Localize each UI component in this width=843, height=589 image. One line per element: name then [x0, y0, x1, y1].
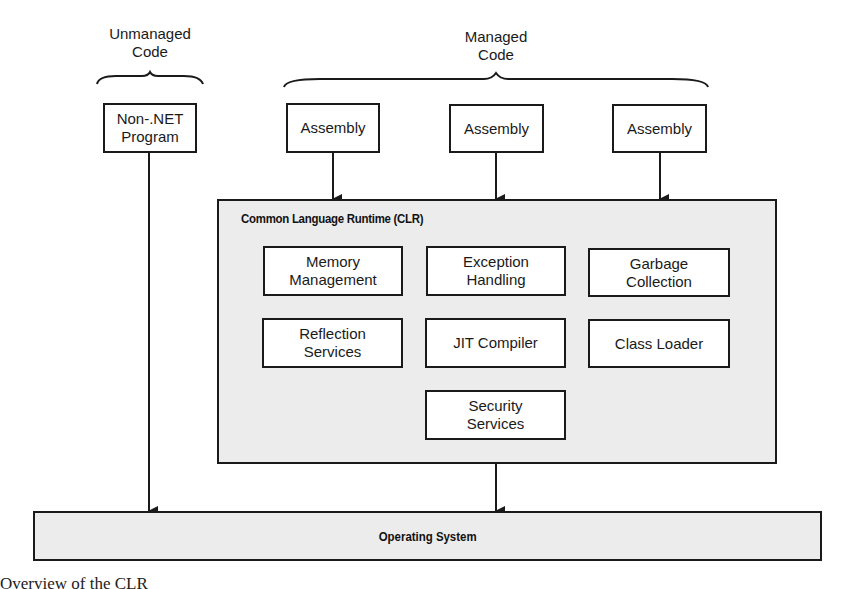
exception-handling-box: Exception Handling — [426, 246, 566, 296]
managed-code-label: Managed Code — [436, 28, 556, 64]
class-loader-box: Class Loader — [588, 319, 730, 368]
managed-brace — [284, 73, 708, 87]
jit-compiler-box: JIT Compiler — [425, 318, 566, 368]
assembly-box-1: Assembly — [286, 103, 380, 153]
reflection-services-box: Reflection Services — [262, 318, 403, 368]
figure-caption: Overview of the CLR — [0, 574, 148, 589]
clr-title: Common Language Runtime (CLR) — [241, 211, 423, 226]
unmanaged-code-label: Unmanaged Code — [90, 25, 210, 61]
assembly-box-3: Assembly — [612, 104, 707, 153]
memory-management-box: Memory Management — [263, 246, 403, 296]
operating-system-label: Operating System — [379, 529, 477, 544]
garbage-collection-box: Garbage Collection — [588, 248, 730, 297]
unmanaged-brace — [97, 72, 203, 84]
non-dotnet-program-box: Non-.NET Program — [103, 103, 197, 153]
operating-system-bar: Operating System — [33, 511, 822, 561]
security-services-box: Security Services — [425, 390, 566, 440]
assembly-box-2: Assembly — [449, 104, 544, 153]
